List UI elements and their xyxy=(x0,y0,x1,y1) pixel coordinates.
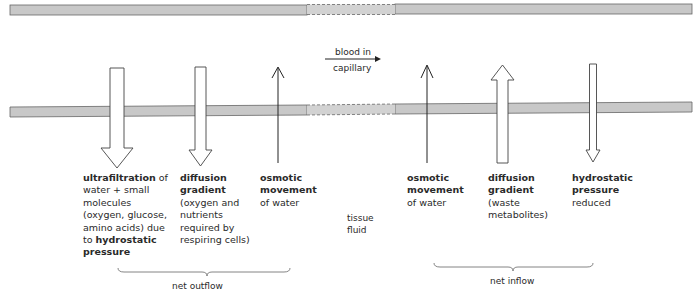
blood-in-label: blood in xyxy=(335,46,371,58)
diffusion-out-arrow-icon xyxy=(189,67,212,166)
osmotic-right-label: osmotic movement of water xyxy=(407,172,464,209)
diffusion-in-label: diffusion gradient (waste metabolites) xyxy=(488,172,548,222)
net-inflow-brace xyxy=(434,263,593,271)
diffusion-out-label: diffusion gradient (oxygen and nutrients… xyxy=(180,172,250,246)
capillary-wall-top xyxy=(10,4,692,15)
net-outflow-brace xyxy=(118,268,290,276)
diffusion-in-arrow-icon xyxy=(491,65,514,163)
ultrafiltration-arrow-icon xyxy=(101,68,133,168)
hydrostatic-reduced-label: hydrostatic pressure reduced xyxy=(572,172,633,209)
net-outflow-label: net outflow xyxy=(172,280,223,292)
osmotic-left-label: osmotic movement of water xyxy=(260,172,317,209)
net-inflow-label: net inflow xyxy=(490,275,534,287)
tissue-fluid-label: tissue fluid xyxy=(347,212,374,237)
capillary-label: capillary xyxy=(333,62,371,74)
ultrafiltration-label: ultrafiltration of water + small molecul… xyxy=(83,172,168,259)
